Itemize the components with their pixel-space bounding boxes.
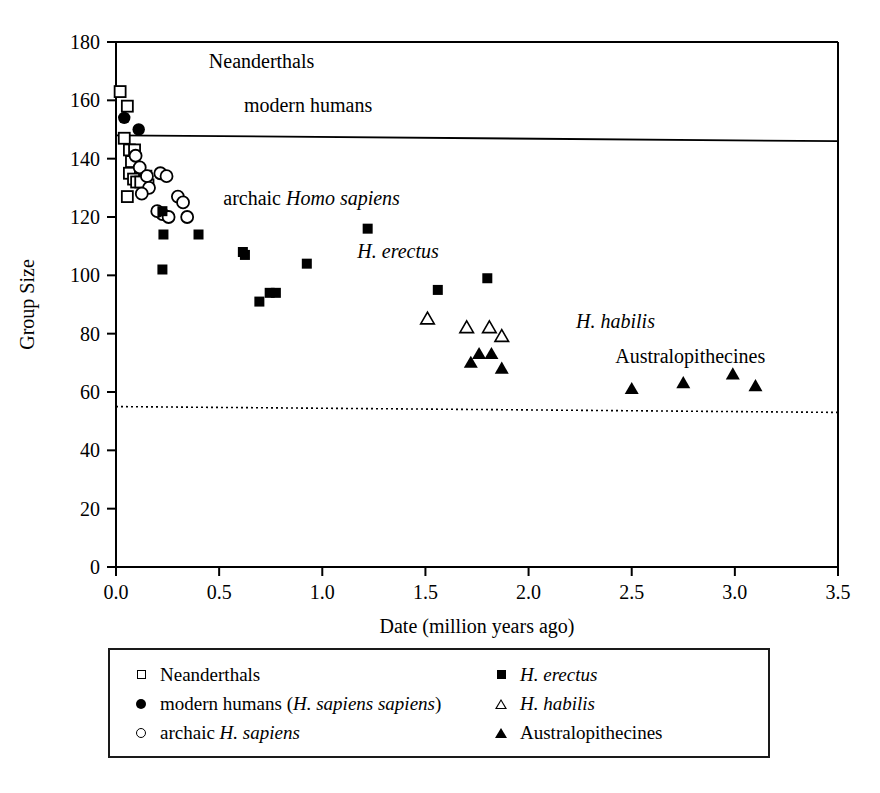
legend-item-label: Australopithecines: [512, 722, 662, 744]
data-point-open-triangle: [495, 330, 509, 342]
legend-marker-slot: [490, 670, 512, 679]
data-point-filled-square: [158, 230, 168, 240]
x-tick-label: 2.0: [516, 581, 541, 603]
legend-column-right: H. erectusH. habilisAustralopithecines: [490, 660, 662, 747]
data-point-filled-triangle: [472, 347, 486, 359]
x-tick-label: 2.5: [619, 581, 644, 603]
x-tick-label: 1.0: [310, 581, 335, 603]
data-point-filled-square: [302, 259, 312, 269]
legend-marker-open-circle-icon: [136, 728, 146, 738]
y-tick-label: 20: [80, 498, 100, 520]
legend-item[interactable]: Australopithecines: [490, 718, 662, 747]
y-tick-label: 60: [80, 381, 100, 403]
x-tick-label: 0.0: [104, 581, 129, 603]
x-tick-label: 1.5: [413, 581, 438, 603]
data-point-filled-circle: [118, 112, 130, 124]
legend-marker-slot: [130, 728, 152, 738]
y-tick-label: 160: [70, 89, 100, 111]
data-point-open-circle: [177, 196, 189, 208]
annotation-label: archaic Homo sapiens: [223, 187, 400, 210]
data-point-filled-triangle: [726, 367, 740, 379]
y-tick-label: 140: [70, 148, 100, 170]
data-point-open-circle: [141, 170, 153, 182]
chart-legend: Neanderthalsmodern humans (H. sapiens sa…: [108, 648, 770, 758]
data-point-filled-square: [433, 285, 443, 295]
y-tick-label: 0: [90, 556, 100, 578]
data-point-filled-triangle: [748, 379, 762, 391]
data-point-filled-square: [363, 224, 373, 234]
figure: 0204060801001201401601800.00.51.01.52.02…: [0, 0, 880, 793]
data-point-open-square: [119, 133, 130, 144]
data-point-filled-circle: [132, 123, 144, 135]
data-point-filled-square: [157, 206, 167, 216]
legend-marker-slot: [490, 699, 512, 709]
data-point-filled-square: [157, 265, 167, 275]
data-point-open-circle: [181, 211, 193, 223]
legend-item-label: Neanderthals: [152, 664, 260, 686]
legend-column-left: Neanderthalsmodern humans (H. sapiens sa…: [130, 660, 441, 747]
legend-marker-open-square-icon: [137, 670, 146, 679]
y-tick-label: 100: [70, 264, 100, 286]
legend-marker-slot: [130, 699, 152, 709]
data-point-filled-triangle: [495, 361, 509, 373]
data-point-filled-square: [482, 273, 492, 283]
legend-item[interactable]: H. erectus: [490, 660, 662, 689]
chimpanzee-group-size-line: [116, 407, 838, 413]
y-tick-label: 80: [80, 323, 100, 345]
legend-marker-filled-circle-icon: [136, 699, 146, 709]
data-point-open-triangle: [421, 312, 435, 324]
legend-marker-slot: [130, 670, 152, 679]
data-point-filled-square: [194, 230, 204, 240]
data-point-open-triangle: [483, 321, 497, 333]
legend-marker-open-triangle-icon: [495, 699, 507, 709]
legend-item[interactable]: H. habilis: [490, 689, 662, 718]
chart-canvas: 0204060801001201401601800.00.51.01.52.02…: [0, 0, 880, 640]
y-axis-title: Group Size: [16, 259, 39, 350]
legend-item[interactable]: modern humans (H. sapiens sapiens): [130, 689, 441, 718]
annotation-label: Neanderthals: [209, 50, 315, 72]
legend-marker-filled-triangle-icon: [495, 728, 507, 738]
data-point-open-circle: [130, 150, 142, 162]
legend-item-label: archaic H. sapiens: [152, 722, 300, 744]
x-tick-label: 3.5: [826, 581, 851, 603]
x-tick-label: 3.0: [722, 581, 747, 603]
data-point-open-circle: [136, 188, 148, 200]
legend-item-label: modern humans (H. sapiens sapiens): [152, 693, 441, 715]
data-point-open-square: [115, 86, 126, 97]
legend-item[interactable]: Neanderthals: [130, 660, 441, 689]
modern-human-group-size-line: [116, 135, 838, 141]
scatter-plot: 0204060801001201401601800.00.51.01.52.02…: [0, 0, 880, 640]
y-tick-label: 120: [70, 206, 100, 228]
y-tick-label: 180: [70, 31, 100, 53]
x-axis-title: Date (million years ago): [380, 615, 575, 638]
annotation-label: H. erectus: [356, 240, 439, 262]
x-tick-label: 0.5: [207, 581, 232, 603]
annotation-label: modern humans: [244, 94, 373, 116]
annotation-label: Australopithecines: [615, 345, 765, 368]
legend-item-label: H. habilis: [512, 693, 595, 715]
data-point-open-square: [122, 101, 133, 112]
data-point-open-square: [122, 191, 133, 202]
legend-item-label: H. erectus: [512, 664, 597, 686]
data-point-filled-triangle: [676, 376, 690, 388]
y-tick-label: 40: [80, 439, 100, 461]
legend-marker-slot: [490, 728, 512, 738]
legend-marker-filled-square-icon: [497, 670, 506, 679]
data-point-filled-square: [271, 288, 281, 298]
data-point-open-circle: [161, 170, 173, 182]
data-point-filled-square: [254, 297, 264, 307]
data-point-open-triangle: [460, 321, 474, 333]
data-point-filled-square: [240, 250, 250, 260]
data-point-filled-triangle: [625, 382, 639, 394]
data-point-filled-triangle: [484, 347, 498, 359]
legend-item[interactable]: archaic H. sapiens: [130, 718, 441, 747]
annotation-label: H. habilis: [575, 310, 655, 332]
